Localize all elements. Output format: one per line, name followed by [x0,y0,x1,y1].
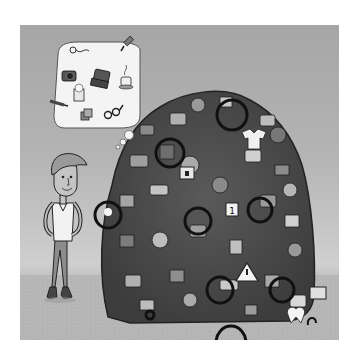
popcorn-icon [74,84,84,101]
illustration-panel: 1 [20,25,339,340]
tv-icon [310,287,326,299]
lock-icon [180,167,194,179]
ground-shadow [44,297,76,303]
clutter-pile: 1 [95,91,326,340]
flower-icon [104,208,112,216]
calendar-icon: 1 [226,203,238,216]
thought-bubble [50,36,140,149]
cropped-heading-text: • ' ' [0,0,358,4]
camera-icon [62,71,76,81]
heading-fragment: • [43,0,53,7]
svg-text:1: 1 [229,206,235,216]
illustration-canvas: 1 [20,25,339,340]
